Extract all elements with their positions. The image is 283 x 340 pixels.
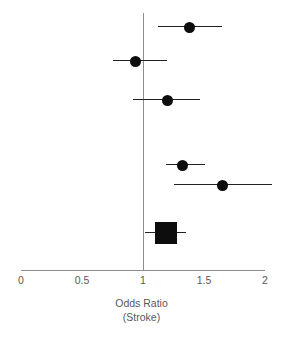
point-estimate-marker (162, 95, 173, 106)
x-tick-label: 1.5 (197, 274, 212, 287)
x-axis-title: Odds Ratio (Stroke) (0, 297, 283, 324)
x-axis-title-main: Odds Ratio (115, 297, 168, 309)
x-tick-label: 2 (262, 274, 268, 287)
study-row (0, 220, 283, 246)
study-row (0, 87, 283, 113)
x-axis-line (21, 270, 265, 271)
x-tick-label: 0 (18, 274, 24, 287)
point-estimate-marker (130, 56, 141, 67)
x-axis-title-sub: (Stroke) (0, 311, 283, 325)
study-row (0, 14, 283, 40)
x-axis-tick-labels: 00.511.52 (0, 274, 283, 292)
study-row (0, 172, 283, 198)
forest-plot-figure: 00.511.52 Odds Ratio (Stroke) (0, 0, 283, 340)
point-estimate-marker (184, 22, 195, 33)
summary-estimate-marker (155, 222, 177, 244)
x-tick-label: 1 (140, 274, 146, 287)
study-row (0, 48, 283, 74)
plot-area (0, 0, 283, 285)
x-tick-label: 0.5 (75, 274, 90, 287)
point-estimate-marker (177, 160, 188, 171)
point-estimate-marker (217, 180, 228, 191)
